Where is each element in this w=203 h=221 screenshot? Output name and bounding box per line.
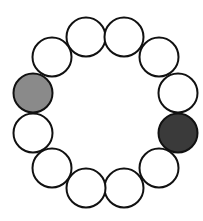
ring-circle: [67, 18, 106, 57]
ring-circle: [105, 18, 144, 57]
ring-circle: [159, 74, 198, 113]
ring-circle-gray: [14, 74, 53, 113]
circle-ring-diagram: [0, 0, 203, 221]
ring-circle: [14, 114, 53, 153]
ring-circle: [140, 149, 179, 188]
ring-circle-dark: [159, 114, 198, 153]
ring-circle: [33, 149, 72, 188]
ring-circle: [140, 38, 179, 77]
ring-circle: [105, 169, 144, 208]
ring-circle: [33, 38, 72, 77]
ring-circle: [67, 169, 106, 208]
